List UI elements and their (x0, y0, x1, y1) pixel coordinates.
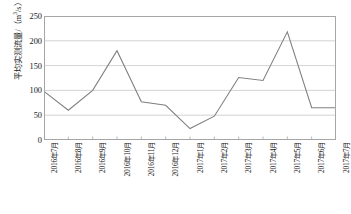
x-axis-tick-label: 2016年12月 (169, 142, 180, 177)
x-axis-tick-label: 2017年1月 (194, 142, 205, 173)
x-axis-tick-label: 2017年5月 (291, 142, 302, 173)
plot-svg (44, 16, 336, 140)
x-axis-tick-label: 2016年9月 (96, 142, 107, 173)
x-axis-tick-labels: 2016年7月2016年8月2016年9月2016年10月2016年11月201… (44, 142, 336, 214)
y-axis-tick-label: 250 (29, 12, 42, 21)
y-axis-tick-label: 200 (29, 36, 42, 45)
y-axis-tick-label: 150 (29, 61, 42, 70)
plot-area (44, 16, 336, 140)
x-axis-tick-marks (44, 137, 336, 141)
y-axis-tick-label: 0 (38, 136, 42, 145)
y-axis-title-exponent: 3 (12, 12, 18, 15)
data-series-line (44, 32, 336, 129)
x-axis-tick-label: 2016年8月 (72, 142, 83, 173)
x-axis-tick-label: 2017年4月 (267, 142, 278, 173)
x-axis-tick-label: 2017年6月 (315, 142, 326, 173)
x-axis-tick-label: 2017年3月 (242, 142, 253, 173)
x-axis-tick-label: 2016年7月 (48, 142, 59, 173)
x-axis-tick-label: 2016年11月 (145, 142, 156, 176)
x-axis-tick-label: 2017年7月 (340, 142, 351, 173)
y-axis-tick-label: 50 (34, 111, 42, 120)
x-axis-tick-label: 2017年2月 (218, 142, 229, 173)
y-axis-tick-label: 100 (29, 86, 42, 95)
gridlines (44, 41, 336, 115)
y-axis-title-tail: /s） (14, 0, 23, 12)
y-axis-tick-labels: 050100150200250 (16, 16, 42, 140)
x-axis-tick-label: 2016年10月 (121, 142, 132, 177)
